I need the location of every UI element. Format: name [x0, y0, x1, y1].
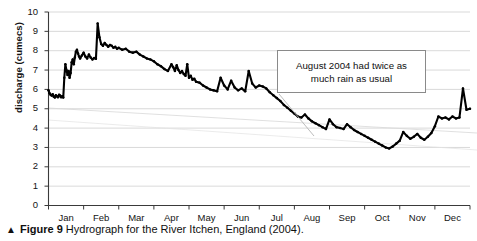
annotation-line-2: much rain as usual [311, 73, 392, 84]
y-tick-label: 5 [16, 102, 38, 113]
y-tick-label: 9 [16, 25, 38, 36]
y-tick-label: 4 [16, 122, 38, 133]
x-tick-label-may: May [187, 212, 227, 223]
y-tick-label: 3 [16, 141, 38, 152]
gridlines [49, 12, 471, 206]
annotation-text: August 2004 had twice as much rain as us… [291, 59, 412, 85]
y-tick-label: 8 [16, 44, 38, 55]
chart-plot-area: discharge (cumecs) 012345678910 JanF [0, 0, 477, 218]
y-tick-label: 6 [16, 83, 38, 94]
figure-hydrograph: discharge (cumecs) 012345678910 JanF [0, 0, 477, 241]
y-tick-label: 7 [16, 64, 38, 75]
x-tick-label-apr: Apr [151, 212, 191, 223]
annotation-leader-line [279, 94, 314, 136]
y-tick-label: 0 [16, 199, 38, 210]
hydrograph-svg [0, 0, 477, 218]
x-tick-label-mar: Mar [116, 212, 156, 223]
annotation-line-1: August 2004 had twice as [296, 60, 407, 71]
caption-label: Figure 9 [20, 223, 63, 235]
x-tick-label-dec: Dec [432, 212, 472, 223]
x-tick-label-oct: Oct [362, 212, 402, 223]
x-axis-ticks [49, 206, 471, 210]
figure-caption: ▲ Figure 9 Hydrograph for the River Itch… [6, 223, 304, 235]
axes [45, 12, 471, 210]
y-axis-ticks [45, 12, 49, 206]
x-tick-label-aug: Aug [292, 212, 332, 223]
x-tick-label-nov: Nov [397, 212, 437, 223]
y-tick-label: 10 [16, 6, 38, 17]
caption-triangle-icon: ▲ [6, 224, 16, 235]
y-tick-label: 1 [16, 180, 38, 191]
x-tick-label-sep: Sep [327, 212, 367, 223]
x-tick-label-jul: Jul [257, 212, 297, 223]
x-tick-label-jan: Jan [46, 212, 86, 223]
annotation-callout: August 2004 had twice as much rain as us… [277, 50, 426, 93]
y-tick-label: 2 [16, 160, 38, 171]
x-tick-label-feb: Feb [81, 212, 121, 223]
x-tick-label-jun: Jun [222, 212, 262, 223]
scan-artifact-lines [48, 108, 477, 150]
caption-text: Hydrograph for the River Itchen, England… [66, 223, 304, 235]
